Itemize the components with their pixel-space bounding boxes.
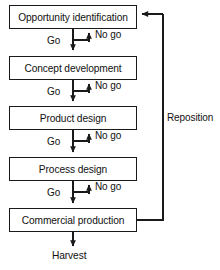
stage-label: Concept development — [24, 63, 121, 74]
stage-box-opportunity-identification[interactable]: Opportunity identification — [9, 5, 137, 29]
edge-label-go-2: Go — [47, 86, 60, 97]
terminal-label-harvest: Harvest — [52, 250, 86, 261]
edge-label-go-4: Go — [47, 187, 60, 198]
edge-label-no-go-4: No go — [95, 181, 121, 192]
edge-label-no-go-3: No go — [95, 130, 121, 141]
stage-box-product-design[interactable]: Product design — [9, 106, 137, 130]
stage-label: Process design — [39, 164, 107, 175]
edge-label-go-1: Go — [47, 35, 60, 46]
stage-label: Opportunity identification — [18, 12, 128, 23]
connector-no-go-4 — [73, 185, 89, 194]
stage-box-process-design[interactable]: Process design — [9, 157, 137, 181]
edge-label-reposition: Reposition — [167, 112, 213, 123]
stage-label: Commercial production — [22, 215, 125, 226]
edge-label-no-go-2: No go — [95, 80, 121, 91]
connector-reposition-loop — [137, 14, 163, 220]
stage-box-concept-development[interactable]: Concept development — [9, 56, 137, 80]
connector-no-go-2 — [73, 84, 89, 93]
connector-no-go-3 — [73, 134, 89, 143]
flowchart-diagram: Opportunity identification Concept devel… — [0, 0, 220, 270]
stage-box-commercial-production[interactable]: Commercial production — [9, 208, 137, 232]
edge-label-no-go-1: No go — [95, 29, 121, 40]
edge-label-go-3: Go — [47, 136, 60, 147]
stage-label: Product design — [40, 113, 107, 124]
connector-no-go-1 — [73, 33, 89, 42]
